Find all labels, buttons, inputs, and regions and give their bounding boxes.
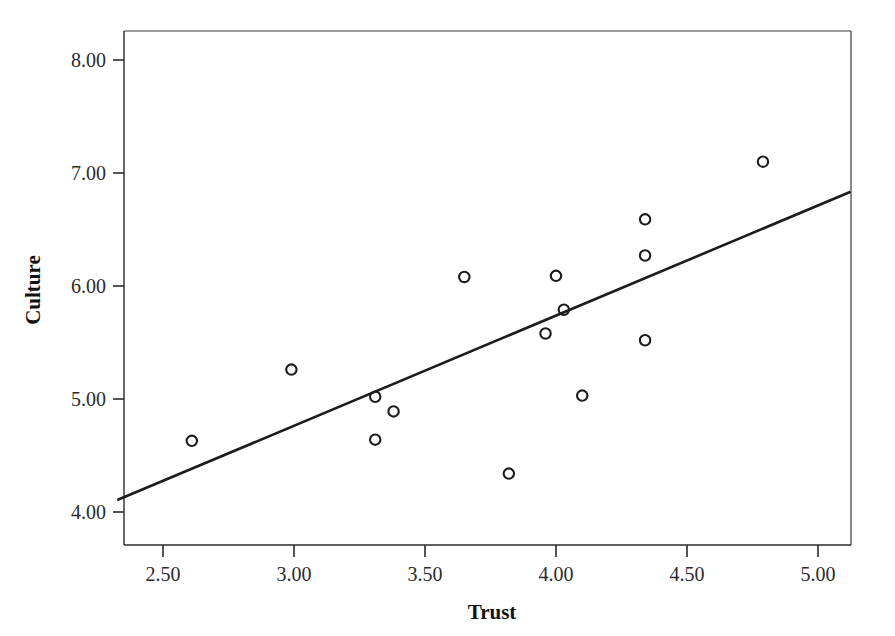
x-tick-label-250: 2.50 xyxy=(146,563,181,585)
y-tick-label-8: 8.00 xyxy=(71,49,106,71)
x-tick-label-300: 3.00 xyxy=(277,563,312,585)
data-point xyxy=(640,335,650,345)
data-point xyxy=(187,436,197,446)
y-tick-label-6: 6.00 xyxy=(71,275,106,297)
data-point xyxy=(459,272,469,282)
y-tick-label-4: 4.00 xyxy=(71,501,106,523)
x-tick-label-500: 5.00 xyxy=(801,563,836,585)
data-point xyxy=(286,364,296,374)
scatter-marker-group xyxy=(187,157,769,479)
x-tick-label-400: 4.00 xyxy=(539,563,574,585)
data-point xyxy=(540,328,550,338)
x-axis-ticks: 2.50 3.00 3.50 4.00 4.50 5.00 xyxy=(146,545,836,585)
plot-canvas: 8.00 7.00 6.00 5.00 4.00 2.50 3.00 3.50 … xyxy=(0,0,895,636)
x-tick-label-350: 3.50 xyxy=(408,563,443,585)
data-point xyxy=(577,390,587,400)
y-tick-label-5: 5.00 xyxy=(71,388,106,410)
regression-fit-line xyxy=(118,192,849,499)
y-tick-label-7: 7.00 xyxy=(71,162,106,184)
data-point xyxy=(758,157,768,167)
x-axis-title: Trust xyxy=(468,600,517,624)
x-tick-label-450: 4.50 xyxy=(670,563,705,585)
data-point xyxy=(640,250,650,260)
data-point xyxy=(370,434,380,444)
y-axis-title: Culture xyxy=(21,255,45,325)
scatter-plot-figure: 8.00 7.00 6.00 5.00 4.00 2.50 3.00 3.50 … xyxy=(0,0,895,636)
plot-frame xyxy=(124,31,851,545)
data-point xyxy=(388,406,398,416)
data-point xyxy=(504,468,514,478)
data-point xyxy=(370,392,380,402)
data-point xyxy=(640,214,650,224)
y-axis-ticks: 8.00 7.00 6.00 5.00 4.00 xyxy=(71,49,124,523)
data-point xyxy=(551,271,561,281)
